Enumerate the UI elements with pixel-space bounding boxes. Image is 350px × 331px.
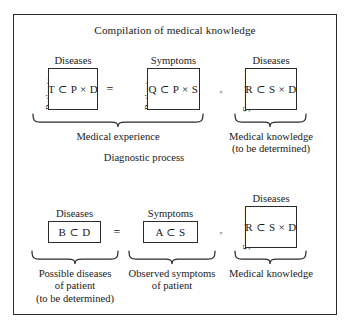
brace-possible-diseases <box>31 250 119 265</box>
caption-medical-knowledge-bottom: Medical knowledge <box>222 268 320 280</box>
caption-line: Observed symptoms <box>123 268 221 280</box>
caption-line: Medical knowledge <box>222 131 320 143</box>
caption-line: Medical experience <box>32 131 204 143</box>
caption-line: Medical knowledge <box>222 268 320 280</box>
caption-line: of patient <box>26 280 124 292</box>
brace-observed-symptoms <box>128 250 216 265</box>
caption-possible-diseases: Possible diseases of patient (to be dete… <box>26 268 124 305</box>
caption-observed-symptoms: Observed symptoms of patient <box>123 268 221 293</box>
matrix-box-r-top: R ⊂ S × D <box>245 68 297 110</box>
column-header-symptoms-q: Symptoms <box>147 55 200 66</box>
caption-line: Diagnostic process <box>58 152 230 164</box>
caption-diagnostic-process: Diagnostic process <box>58 152 230 164</box>
column-header-symptoms-a: Symptoms <box>143 208 198 219</box>
diagram-canvas: Compilation of medical knowledge Disease… <box>0 0 350 331</box>
matrix-box-q: Q ⊂ P × S <box>147 68 200 110</box>
matrix-box-b: B ⊂ D <box>48 221 101 243</box>
caption-line: (to be determined) <box>222 143 320 155</box>
caption-line: of patient <box>123 280 221 292</box>
caption-line: Possible diseases <box>26 268 124 280</box>
column-header-diseases-r-bottom: Diseases <box>245 193 297 204</box>
column-header-diseases-t: Diseases <box>48 55 98 66</box>
operator-equals-bottom: = <box>110 225 124 240</box>
operator-equals-top: = <box>103 82 117 97</box>
figure-title: Compilation of medical knowledge <box>0 24 350 36</box>
matrix-box-r-bottom: R ⊂ S × D <box>245 206 297 248</box>
matrix-box-a: A ⊂ S <box>143 221 198 243</box>
column-header-diseases-b: Diseases <box>48 208 101 219</box>
matrix-box-t: T ⊂ P × D <box>48 68 98 110</box>
caption-medical-experience: Medical experience <box>32 131 204 143</box>
column-header-diseases-r-top: Diseases <box>245 55 297 66</box>
brace-medical-knowledge-top <box>234 113 307 128</box>
operator-composition-top: ◦ <box>215 87 227 97</box>
brace-medical-knowledge-bottom <box>234 250 307 265</box>
brace-medical-experience <box>32 113 204 128</box>
caption-line: (to be determined) <box>26 293 124 305</box>
caption-medical-knowledge-top: Medical knowledge (to be determined) <box>222 131 320 156</box>
operator-composition-bottom: ◦ <box>215 228 227 238</box>
